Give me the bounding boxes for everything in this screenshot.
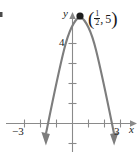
parabola-curve xyxy=(46,17,114,134)
left-branch-arrowhead xyxy=(41,132,50,146)
x-axis-label: x xyxy=(129,124,134,135)
vertex-label-comma: , xyxy=(100,13,103,25)
y-axis-label: y xyxy=(63,8,68,19)
vertex-label-close-paren: ) xyxy=(111,9,117,28)
parabola-figure: x y −3 3 4 ( 1 2 , 5 ) xyxy=(0,0,139,161)
vertex-coordinate-label: ( 1 2 , 5 ) xyxy=(88,9,118,28)
edge-artifact-mark xyxy=(0,12,3,17)
vertex-point-marker xyxy=(76,12,83,19)
x-tick-label-3: 3 xyxy=(114,126,120,137)
y-axis-arrowhead xyxy=(69,12,75,19)
x-tick-label-neg3: −3 xyxy=(12,126,24,137)
vertex-label-open-paren: ( xyxy=(88,9,94,28)
y-tick-label-4: 4 xyxy=(59,37,65,48)
